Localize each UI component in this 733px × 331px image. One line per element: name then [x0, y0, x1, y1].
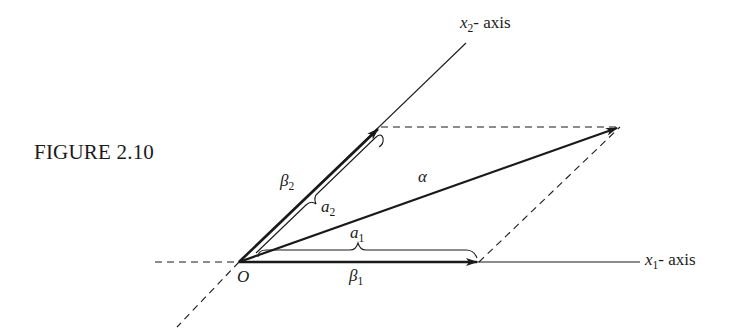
brace-a1	[258, 243, 477, 258]
beta1-sub: 1	[357, 275, 363, 288]
x2-axis-suffix: - axis	[473, 13, 510, 32]
x2-axis-var: x	[460, 13, 468, 32]
figure-caption: FIGURE 2.10	[34, 142, 154, 163]
a2-label: a2	[321, 198, 335, 219]
vector-alpha	[239, 128, 617, 262]
x1-axis-label: x1- axis	[645, 251, 696, 272]
a1-sub: 1	[359, 232, 365, 245]
x1-axis-var: x	[645, 250, 653, 269]
parallelogram-right-dashed	[479, 127, 620, 262]
x1-axis-suffix: - axis	[658, 250, 695, 269]
beta1-label: β1	[349, 267, 363, 288]
x2-axis-label: x2- axis	[460, 14, 511, 35]
x2-axis-negative	[177, 262, 239, 327]
a2-sub: 2	[330, 206, 336, 219]
a1-symbol: a	[350, 223, 359, 242]
a2-symbol: a	[321, 197, 330, 216]
a1-label: a1	[350, 224, 364, 245]
origin-label: O	[237, 268, 249, 285]
beta2-sub: 2	[288, 180, 294, 193]
beta2-label: β2	[280, 172, 294, 193]
alpha-label: α	[418, 168, 427, 185]
vector-decomposition-diagram	[0, 0, 733, 331]
